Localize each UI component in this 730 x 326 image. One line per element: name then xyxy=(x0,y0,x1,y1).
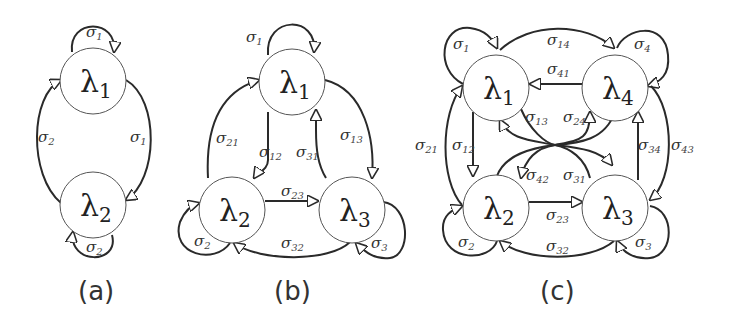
edge-label-b-sigma21: σ21 xyxy=(216,129,239,148)
panel-b: λ1 λ2 λ3 σ1 σ21 σ12 σ31 σ13 σ23 σ32 σ2 σ… xyxy=(179,25,405,306)
state-node-b-1: λ1 xyxy=(259,49,325,115)
edge-label-c-sigma2: σ2 xyxy=(458,233,475,252)
edge-label-c-sigma4: σ4 xyxy=(634,35,651,54)
edge-label-b-sigma3: σ3 xyxy=(371,234,388,253)
edge-label-b-sigma12: σ12 xyxy=(259,143,282,162)
edge-label-b-sigma2: σ2 xyxy=(194,232,211,251)
panel-c: λ1 λ4 λ2 λ3 σ1 σ14 σ4 σ41 σ13 σ24 σ21 σ1… xyxy=(415,28,694,306)
edge-label-c-sigma32: σ32 xyxy=(546,237,569,256)
state-node-b-2: λ2 xyxy=(199,177,265,243)
edge-label-c-sigma1: σ1 xyxy=(453,35,470,54)
edge-label-c-sigma42: σ42 xyxy=(526,166,549,185)
edge-label-a-sigma2-bottom: σ2 xyxy=(86,238,103,257)
edge-label-b-sigma32: σ32 xyxy=(281,234,304,253)
edge-label-b-sigma13: σ13 xyxy=(340,126,363,145)
edge-label-c-sigma31: σ31 xyxy=(563,166,586,185)
state-node-c-2: λ2 xyxy=(463,175,529,241)
state-node-a-1: λ1 xyxy=(60,48,126,114)
edge-c-3-to-1 xyxy=(500,120,590,178)
edge-label-c-sigma41: σ41 xyxy=(547,60,570,79)
edge-label-a-sigma1-right: σ1 xyxy=(130,128,147,147)
edge-label-c-sigma13: σ13 xyxy=(525,108,548,127)
state-node-a-2: λ2 xyxy=(60,172,126,238)
state-node-c-1: λ1 xyxy=(463,55,529,121)
edge-label-b-sigma31: σ31 xyxy=(296,143,319,162)
edge-c-4-to-3 xyxy=(650,86,669,200)
edge-label-c-sigma21: σ21 xyxy=(415,136,438,155)
state-node-c-4: λ4 xyxy=(582,55,648,121)
caption-b: (b) xyxy=(274,276,311,306)
edge-b-3-to-1 xyxy=(316,110,326,178)
edge-label-c-sigma24: σ24 xyxy=(563,108,586,127)
edge-label-a-sigma1-top: σ1 xyxy=(86,23,103,42)
caption-c: (c) xyxy=(540,276,575,306)
edge-label-a-sigma2-left: σ2 xyxy=(38,128,55,147)
panel-a: λ1 λ2 σ1 σ2 σ1 σ2 (a) xyxy=(37,23,151,306)
edge-label-c-sigma34: σ34 xyxy=(638,136,661,155)
edge-label-c-sigma3: σ3 xyxy=(635,233,652,252)
edge-label-c-sigma23: σ23 xyxy=(546,206,569,225)
edge-label-c-sigma14: σ14 xyxy=(547,31,570,50)
caption-a: (a) xyxy=(78,276,114,306)
edge-label-c-sigma12: σ12 xyxy=(452,136,475,155)
edge-label-b-sigma1: σ1 xyxy=(246,28,263,47)
state-transition-diagrams: λ1 λ2 σ1 σ2 σ1 σ2 (a) λ1 λ2 xyxy=(0,0,730,326)
edge-label-c-sigma43: σ43 xyxy=(671,136,694,155)
edge-label-b-sigma23: σ23 xyxy=(281,182,304,201)
state-node-c-3: λ3 xyxy=(582,175,648,241)
